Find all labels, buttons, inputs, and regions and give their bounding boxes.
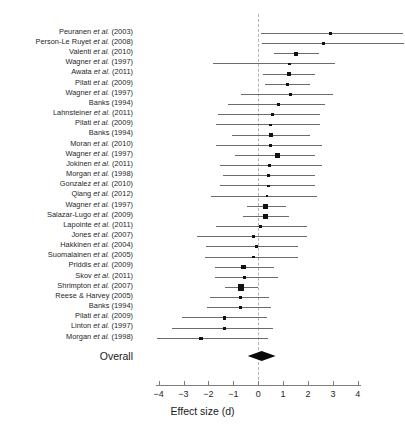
x-axis-tick-label: 0 — [247, 390, 269, 399]
study-label: Moran et al. (2010) — [70, 140, 133, 147]
study-label: Skov et al. (2011) — [75, 272, 133, 279]
forest-plot: Peuranen et al. (2003)Person-Le Ruyet et… — [0, 0, 405, 431]
point-estimate-marker — [239, 296, 242, 299]
point-estimate-marker — [268, 164, 271, 167]
confidence-interval-line — [215, 277, 278, 278]
point-estimate-marker — [271, 113, 274, 116]
study-label: Lapointe et al. (2011) — [63, 221, 133, 228]
study-label: Suomalainen et al. (2005) — [48, 251, 133, 258]
x-axis-tick — [308, 381, 309, 385]
x-axis-tick — [184, 381, 185, 385]
x-axis-tick-label: 3 — [322, 390, 344, 399]
study-label: Qiang et al. (2012) — [71, 190, 133, 197]
point-estimate-marker — [199, 337, 202, 340]
point-estimate-marker — [322, 42, 325, 45]
x-axis-tick — [358, 381, 359, 385]
confidence-interval-line — [157, 338, 268, 339]
point-estimate-marker — [294, 52, 298, 56]
study-label: Wagner et al. (1997) — [65, 201, 133, 208]
study-label: Pilati et al. (2009) — [75, 312, 133, 319]
point-estimate-marker — [329, 32, 332, 35]
study-label: Gonzalez et al. (2010) — [60, 180, 133, 187]
point-estimate-marker — [286, 83, 290, 87]
x-axis-tick-label: 2 — [297, 390, 319, 399]
study-label: Jones et al. (2007) — [71, 231, 133, 238]
point-estimate-marker — [263, 214, 268, 219]
confidence-interval-line — [262, 43, 404, 44]
point-estimate-marker — [243, 276, 246, 279]
study-label: Valenti et al. (2010) — [69, 48, 133, 55]
point-estimate-marker — [259, 225, 262, 228]
x-axis-tick — [233, 381, 234, 385]
study-label: Morgan et al. (1998) — [66, 333, 133, 340]
x-axis-tick-label: −4 — [148, 390, 170, 399]
point-estimate-marker — [223, 316, 226, 319]
study-label: Linton et al. (1997) — [71, 322, 133, 329]
x-axis-tick-label: −2 — [197, 390, 219, 399]
point-estimate-marker — [238, 284, 244, 290]
study-label: Hakkinen et al. (2004) — [60, 241, 133, 248]
point-estimate-marker — [288, 63, 291, 66]
overall-effect-diamond — [248, 351, 276, 361]
x-axis-tick-label: 1 — [272, 390, 294, 399]
study-label: Shrimpton et al. (2007) — [57, 282, 133, 289]
point-estimate-marker — [289, 93, 292, 96]
study-label: Pilati et al. (2009) — [75, 119, 133, 126]
confidence-interval-line — [211, 196, 317, 197]
study-label: Wagner et al. (1997) — [65, 58, 133, 65]
study-label: Lahnsteiner et al. (2011) — [53, 109, 133, 116]
point-estimate-marker — [223, 327, 226, 330]
point-estimate-marker — [267, 174, 270, 177]
study-label: Peuranen et al. (2003) — [59, 28, 133, 35]
study-label: Banks (1994) — [89, 99, 133, 106]
point-estimate-marker — [277, 103, 280, 106]
zero-reference-line — [258, 14, 259, 385]
overall-label: Overall — [100, 351, 133, 362]
study-label: Pilati et al. (2009) — [75, 79, 133, 86]
point-estimate-marker — [269, 133, 273, 137]
study-label: Banks (1994) — [89, 129, 133, 136]
x-axis-tick-label: −3 — [173, 390, 195, 399]
confidence-interval-line — [216, 124, 320, 125]
confidence-interval-line — [218, 114, 320, 115]
study-label: Wagner et al. (1997) — [65, 150, 133, 157]
study-label: Priddis et al. (2009) — [68, 261, 133, 268]
point-estimate-marker — [266, 195, 269, 198]
study-label: Morgan et al. (1998) — [66, 170, 133, 177]
study-label: Person-Le Ruyet et al. (2008) — [35, 38, 133, 45]
study-label: Wagner et al. (1997) — [65, 89, 133, 96]
study-label: Jokinen et al. (2011) — [66, 160, 133, 167]
x-axis-line — [156, 385, 361, 386]
x-axis-tick-label: −1 — [222, 390, 244, 399]
x-axis-tick — [333, 381, 334, 385]
x-axis-title: Effect size (d) — [0, 405, 405, 417]
confidence-interval-line — [213, 63, 335, 64]
x-axis-tick-label: 4 — [347, 390, 369, 399]
point-estimate-marker — [263, 204, 268, 209]
study-label: Banks (1994) — [89, 302, 133, 309]
point-estimate-marker — [252, 256, 255, 259]
point-estimate-marker — [269, 144, 272, 147]
confidence-interval-line — [206, 246, 298, 247]
study-label: Awata et al. (2011) — [71, 68, 133, 75]
point-estimate-marker — [269, 124, 272, 127]
point-estimate-marker — [275, 153, 280, 158]
point-estimate-marker — [239, 306, 242, 309]
point-estimate-marker — [255, 245, 258, 248]
point-estimate-marker — [287, 72, 291, 76]
x-axis-tick — [258, 381, 259, 385]
x-axis-tick — [283, 381, 284, 385]
point-estimate-marker — [241, 265, 246, 270]
study-label: Salazar-Lugo et al. (2009) — [47, 211, 133, 218]
point-estimate-marker — [252, 235, 255, 238]
point-estimate-marker — [267, 185, 270, 188]
x-axis-tick — [208, 381, 209, 385]
confidence-interval-line — [241, 94, 333, 95]
x-axis-tick — [159, 381, 160, 385]
study-label: Reese & Harvey (2005) — [55, 292, 133, 299]
